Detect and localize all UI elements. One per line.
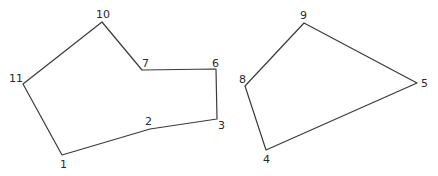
edges-group [23,22,417,155]
vertex-label-7: 7 [142,57,149,70]
labels-group: 1234567891011 [9,8,428,171]
vertex-label-5: 5 [421,77,428,90]
vertex-label-4: 4 [263,153,270,166]
right-polygon [245,23,417,150]
diagram-canvas: 1234567891011 [0,0,438,176]
vertex-label-2: 2 [145,115,152,128]
left-polygon [23,22,217,155]
vertex-label-11: 11 [9,72,23,85]
vertex-label-8: 8 [239,73,246,86]
vertex-label-3: 3 [218,119,225,132]
vertex-label-10: 10 [96,8,110,21]
vertex-label-1: 1 [60,158,67,171]
vertex-label-9: 9 [300,9,307,22]
vertex-label-6: 6 [212,57,219,70]
